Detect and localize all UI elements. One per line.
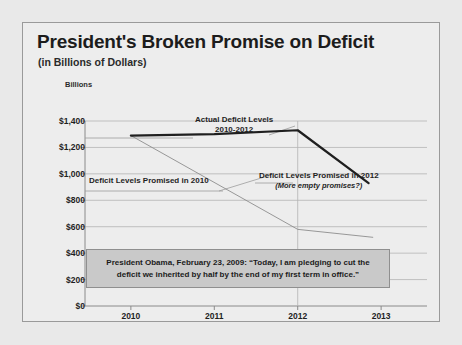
annotation-actual-deficit: Actual Deficit Levels 2010-2012 [195, 115, 273, 135]
y-tick-label: $600 [66, 222, 85, 232]
annotation-promised-2010-label: Deficit Levels Promised in 2010 [89, 176, 209, 185]
annotation-promised-2010: Deficit Levels Promised in 2010 [89, 176, 209, 186]
x-tick-label: 2011 [205, 311, 223, 321]
annotation-actual-line2: 2010-2012 [215, 125, 253, 134]
y-tick-label: $400 [66, 248, 85, 258]
y-tick-label: $800 [66, 195, 85, 205]
x-tick-label: 2012 [288, 311, 307, 321]
x-tick-label: 2013 [372, 311, 391, 321]
y-tick-label: $200 [66, 275, 85, 285]
y-axis-tick-labels: $0$200$400$600$800$1,000$1,200$1,400 [33, 23, 85, 323]
annotation-actual-line1: Actual Deficit Levels [195, 115, 273, 124]
quote-callout: President Obama, February 23, 2009: “Tod… [86, 249, 390, 288]
y-tick-label: $0 [76, 301, 85, 311]
annotation-promised-2012-label: Deficit Levels Promised in 2012 [259, 171, 379, 180]
annotation-promised-2012-sub: (More empty promises?) [259, 181, 379, 190]
y-tick-label: $1,400 [59, 116, 85, 126]
annotation-promised-2012: Deficit Levels Promised in 2012 (More em… [259, 171, 379, 190]
chart-panel: President's Broken Promise on Deficit (i… [22, 22, 440, 322]
x-tick-label: 2010 [121, 311, 140, 321]
y-tick-label: $1,200 [59, 142, 85, 152]
y-tick-label: $1,000 [59, 169, 85, 179]
